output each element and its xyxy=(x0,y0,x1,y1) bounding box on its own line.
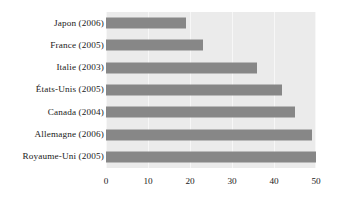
bar-row xyxy=(106,101,316,123)
y-axis-tick-label: Canada (2004) xyxy=(2,108,104,117)
bar xyxy=(106,107,295,118)
plot-area xyxy=(106,12,316,168)
bar-row xyxy=(106,57,316,79)
x-axis-tick-label: 0 xyxy=(104,177,109,186)
y-axis-tick-label: Italie (2003) xyxy=(2,63,104,72)
x-axis-tick-label: 20 xyxy=(185,177,194,186)
bar-row xyxy=(106,146,316,168)
bar-chart-figure: Japon (2006)France (2005)Italie (2003)Ét… xyxy=(0,0,348,212)
x-axis-tick-label: 50 xyxy=(311,177,320,186)
x-axis-tick-label: 40 xyxy=(269,177,278,186)
bar-row xyxy=(106,123,316,145)
x-axis-tick-label: 30 xyxy=(227,177,236,186)
y-axis-tick-label: France (2005) xyxy=(2,41,104,50)
bar-row xyxy=(106,12,316,34)
bar xyxy=(106,129,312,140)
y-axis-tick-label: Japon (2006) xyxy=(2,19,104,28)
x-axis: 01020304050 xyxy=(106,168,316,192)
bar xyxy=(106,151,316,162)
bar-row xyxy=(106,34,316,56)
y-axis-tick-label: Royaume-Uni (2005) xyxy=(2,152,104,161)
bar xyxy=(106,18,186,29)
x-axis-tick-label: 10 xyxy=(143,177,152,186)
bar xyxy=(106,40,203,51)
bar xyxy=(106,84,282,95)
y-axis-tick-label: Allemagne (2006) xyxy=(2,130,104,139)
y-axis-category-labels: Japon (2006)France (2005)Italie (2003)Ét… xyxy=(0,12,104,168)
bar xyxy=(106,62,257,73)
bar-row xyxy=(106,79,316,101)
y-axis-tick-label: États-Unis (2005) xyxy=(2,85,104,94)
